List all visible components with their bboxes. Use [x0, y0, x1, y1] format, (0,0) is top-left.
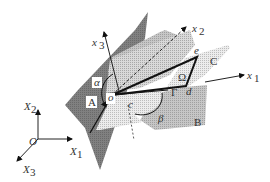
diagram-canvas: x 3 x 2 x 1 α A o c e d C Ω Γ β B X 2 O …	[0, 0, 270, 182]
svg-text:x: x	[91, 36, 97, 48]
label-d: d	[186, 85, 192, 97]
label-x1: x 1	[246, 69, 260, 84]
label-global-X3: X 3	[22, 163, 36, 178]
svg-text:2: 2	[31, 103, 37, 115]
svg-text:1: 1	[77, 148, 83, 160]
label-x3: x 3	[91, 36, 105, 51]
svg-text:3: 3	[30, 166, 36, 178]
label-plane-a: A	[88, 96, 96, 108]
label-x2: x 2	[191, 22, 205, 37]
svg-text:x: x	[246, 69, 252, 81]
label-beta: β	[157, 112, 164, 124]
label-global-X2: X 2	[23, 100, 37, 115]
label-plane-c: C	[210, 55, 217, 67]
label-c: c	[128, 98, 133, 110]
label-gamma: Γ	[171, 86, 177, 98]
label-alpha: α	[94, 76, 100, 88]
svg-text:3: 3	[99, 39, 105, 51]
x1-axis	[205, 75, 244, 82]
label-omega: Ω	[178, 71, 186, 83]
label-o: o	[108, 91, 114, 103]
label-e: e	[194, 44, 199, 56]
svg-text:x: x	[191, 22, 197, 34]
label-plane-b: B	[194, 116, 201, 128]
label-global-origin: O	[29, 135, 37, 147]
svg-text:1: 1	[254, 72, 260, 84]
label-global-X1: X 1	[69, 145, 83, 160]
svg-text:2: 2	[199, 25, 205, 37]
